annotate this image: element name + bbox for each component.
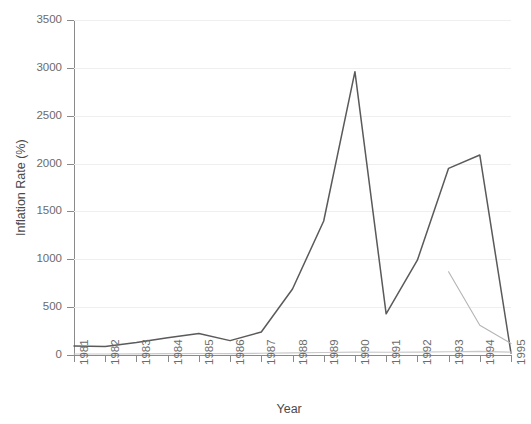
x-axis-tick-label: 1988: [298, 339, 309, 365]
y-axis-tick-label: 2000: [22, 158, 62, 169]
x-axis-tick: [511, 355, 512, 362]
x-axis-tick-label: 1994: [485, 339, 496, 365]
x-axis-tick: [261, 355, 262, 362]
x-axis-tick: [417, 355, 418, 362]
y-axis-tick-label: 2500: [22, 110, 62, 121]
x-axis-tick: [74, 355, 75, 362]
x-axis-tick: [480, 355, 481, 362]
x-axis-tick: [230, 355, 231, 362]
y-axis-tick: [67, 20, 74, 21]
x-axis-tick-label: 1990: [360, 339, 371, 365]
x-axis-tick-label: 1981: [79, 339, 90, 365]
y-axis-tick-label: 3500: [22, 14, 62, 25]
y-axis-tick-label: 1500: [22, 205, 62, 216]
y-axis-tick-label: 0: [22, 349, 62, 360]
x-axis-tick: [386, 355, 387, 362]
x-axis-tick: [199, 355, 200, 362]
x-axis-tick: [293, 355, 294, 362]
x-axis-tick-label: 1984: [173, 339, 184, 365]
y-axis-tick-label: 500: [22, 301, 62, 312]
y-axis-tick-label: 3000: [22, 62, 62, 73]
x-axis-tick: [355, 355, 356, 362]
x-axis-tick: [105, 355, 106, 362]
x-axis-tick: [168, 355, 169, 362]
y-axis-tick: [67, 164, 74, 165]
x-axis-tick: [324, 355, 325, 362]
x-axis-tick-label: 1991: [391, 339, 402, 365]
y-axis-tick: [67, 259, 74, 260]
x-axis-tick-label: 1985: [204, 339, 215, 365]
y-axis-tick: [67, 307, 74, 308]
x-axis-tick: [136, 355, 137, 362]
x-axis-tick-label: 1993: [454, 339, 465, 365]
x-axis-tick-label: 1995: [516, 339, 527, 365]
y-axis-tick-label: 1000: [22, 253, 62, 264]
y-axis-tick: [67, 355, 74, 356]
data-line-series-1: [74, 72, 511, 353]
x-axis-tick-label: 1989: [329, 339, 340, 365]
x-axis-tick-label: 1992: [422, 339, 433, 365]
x-axis-tick-label: 1982: [110, 339, 121, 365]
y-axis-tick: [67, 68, 74, 69]
inflation-rate-line-chart: Inflation Rate (%) Year 0500100015002000…: [0, 0, 531, 424]
x-axis-tick-label: 1983: [141, 339, 152, 365]
data-line-series-2: [449, 272, 511, 344]
y-axis-tick: [67, 116, 74, 117]
y-axis-tick: [67, 211, 74, 212]
x-axis-tick-label: 1987: [266, 339, 277, 365]
x-axis-tick-label: 1986: [235, 339, 246, 365]
x-axis-tick: [449, 355, 450, 362]
